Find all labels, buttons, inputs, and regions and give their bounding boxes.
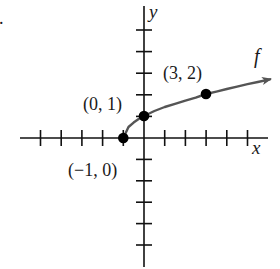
function-label: f [254,45,262,68]
y-axis-label: y [147,1,158,22]
function-graph: . x y [0,0,280,269]
x-axis-label: x [251,137,261,158]
point-label-3-2: (3, 2) [163,63,202,84]
problem-marker: . [0,8,4,28]
point-0-1 [139,111,150,122]
function-curve-f [123,79,270,138]
point-3-2 [201,89,212,100]
point-label-0-1: (0, 1) [83,94,122,115]
point-label-neg1-0: (−1, 0) [68,160,117,181]
point-neg1-0 [118,133,129,144]
y-axis: y [136,1,158,267]
